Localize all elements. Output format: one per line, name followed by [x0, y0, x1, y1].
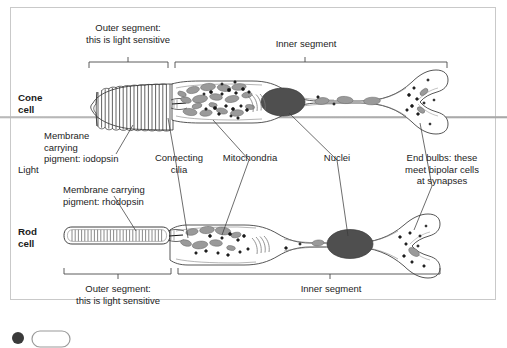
light-label: Light: [18, 164, 39, 176]
rod-nucleus: [327, 230, 373, 259]
bullet-icon: [12, 332, 24, 344]
cone-outer-segment-label-line2: this is light sensitive: [66, 34, 190, 46]
cone-inner-segment-label: Inner segment: [252, 38, 360, 50]
end-bulbs-label: End bulbs: these meet bipolar cells at s…: [395, 152, 489, 187]
rod-outer-segment-label-line2: this is light sensitive: [56, 295, 180, 307]
cone-membrane-label-line2: carrying: [44, 142, 118, 154]
cone-inner-segment: [172, 70, 448, 134]
end-bulbs-label-line1: End bulbs: these: [395, 152, 489, 164]
mitochondria-label: Mitochondria: [215, 152, 285, 164]
rod-membrane-label: Membrane carrying pigment: rhodopsin: [63, 184, 145, 207]
cone-outer-bracket: [89, 62, 168, 68]
cone-membrane-label-line3: pigment: iodopsin: [44, 153, 118, 165]
rod-outer-segment: [64, 227, 170, 244]
cone-outer-segment-label: Outer segment: this is light sensitive: [66, 22, 190, 45]
rod-membrane-label-line2: pigment: rhodopsin: [63, 196, 145, 208]
end-bulbs-label-line3: at synapses: [395, 175, 489, 187]
leader-nuclei-rod: [337, 160, 348, 236]
connecting-cilia-label: Connecting cilia: [148, 152, 210, 175]
clipped-bottom-control[interactable]: [12, 326, 72, 348]
connecting-cilia-label-line2: cilia: [148, 164, 210, 176]
cone-membrane-label: Membrane carrying pigment: iodopsin: [44, 130, 118, 165]
rod-membrane-label-line1: Membrane carrying: [63, 184, 145, 196]
rod-brackets: [64, 268, 440, 279]
connecting-cilia-label-line1: Connecting: [148, 152, 210, 164]
rod-row-label-line2: cell: [18, 238, 37, 250]
leader-lines: [114, 113, 432, 238]
cone-nucleus: [261, 88, 305, 116]
cone-inner-bracket: [175, 62, 447, 68]
nuclei-label: Nuclei: [315, 152, 359, 164]
cone-outer-segment: [91, 84, 173, 131]
rod-row-label-line1: Rod: [18, 226, 37, 238]
cone-outer-segment-label-line1: Outer segment:: [66, 22, 190, 34]
rod-outer-bracket: [64, 268, 171, 274]
rod-outer-segment-label-line1: Outer segment:: [56, 283, 180, 295]
rod-row-label: Rod cell: [18, 226, 37, 249]
rod-inner-segment: [170, 214, 440, 278]
leader-mitochondria-rod: [222, 160, 249, 235]
rod-inner-segment-label: Inner segment: [277, 283, 385, 295]
cone-cell-drawing: [91, 70, 448, 134]
cone-brackets: [89, 57, 447, 68]
cone-row-label-line2: cell: [18, 104, 43, 116]
rod-outer-segment-label: Outer segment: this is light sensitive: [56, 283, 180, 306]
rod-inner-bracket: [178, 268, 440, 274]
cone-membrane-label-line1: Membrane: [44, 130, 118, 142]
cone-row-label-line1: Cone: [18, 92, 43, 104]
cone-row-label: Cone cell: [18, 92, 43, 115]
end-bulbs-label-line2: meet bipolar cells: [395, 164, 489, 176]
pill-button-outline[interactable]: [32, 331, 70, 347]
rod-cell-drawing: [64, 214, 440, 278]
